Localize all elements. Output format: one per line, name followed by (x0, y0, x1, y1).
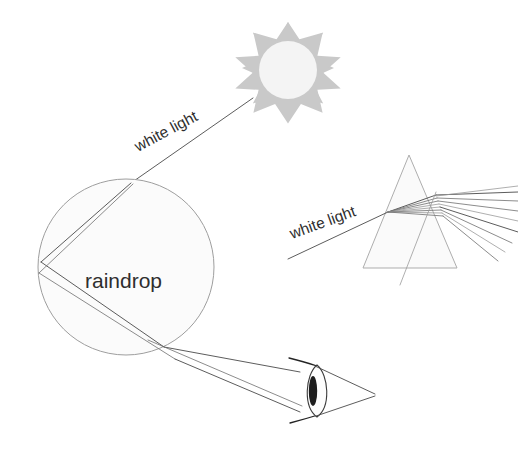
raindrop-exit-ray-lower (175, 359, 300, 412)
dispersed-ray-5 (440, 207, 518, 232)
dispersed-ray-9 (436, 186, 518, 196)
eye-lower-lash (290, 415, 318, 423)
white-light-label-prism: white light (286, 202, 358, 242)
dispersed-ray-2 (437, 198, 518, 201)
raindrop-circle (38, 179, 214, 355)
raindrop-label: raindrop (85, 269, 162, 292)
dispersed-ray-7 (442, 213, 505, 252)
raindrop-exit-rays-to-eye (148, 340, 302, 412)
eye-pupil (309, 376, 317, 406)
sun-core-disc (259, 41, 317, 99)
diagram-canvas: white light raindrop white light (0, 0, 518, 452)
eye-icon (289, 358, 375, 423)
sun-icon (235, 22, 340, 124)
white-light-label-raindrop: white light (131, 107, 201, 155)
eye-upper-lash (289, 358, 317, 366)
raindrop-exit-ray-mid (148, 340, 302, 406)
optics-diagram: white light raindrop white light (0, 0, 518, 452)
raindrop-exit-ray-upper (164, 347, 300, 372)
